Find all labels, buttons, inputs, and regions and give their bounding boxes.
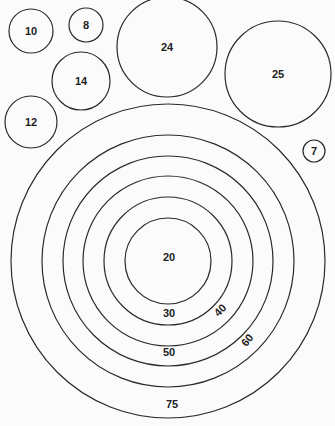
circle-25: 25 [225,21,331,127]
circle-7: 7 [303,140,325,162]
circle-8: 8 [69,8,103,42]
circle-label: 8 [83,19,89,31]
ring-label: 50 [163,346,175,358]
separate-circles-group: 108242514127 [5,0,331,162]
circle-label: 24 [161,41,174,53]
ring-label: 60 [238,331,255,348]
ring-20: 20 [125,218,211,304]
ring-label: 20 [163,251,175,263]
circle-label: 14 [75,75,88,87]
circle-14: 14 [52,52,110,110]
circle-24: 24 [117,0,217,97]
concentric-rings-group: 203040506075 [11,104,325,418]
ring-label: 40 [211,301,228,318]
circle-label: 12 [25,116,37,128]
ring-label: 30 [163,307,175,319]
circle-10: 10 [9,9,53,53]
circle-12: 12 [5,96,57,148]
ring-label: 75 [166,398,178,410]
circle-label: 7 [311,145,317,157]
circle-label: 10 [25,25,37,37]
circle-size-diagram: 108242514127 203040506075 [0,0,335,426]
circle-label: 25 [272,68,284,80]
diagram-svg: 108242514127 203040506075 [0,0,335,426]
